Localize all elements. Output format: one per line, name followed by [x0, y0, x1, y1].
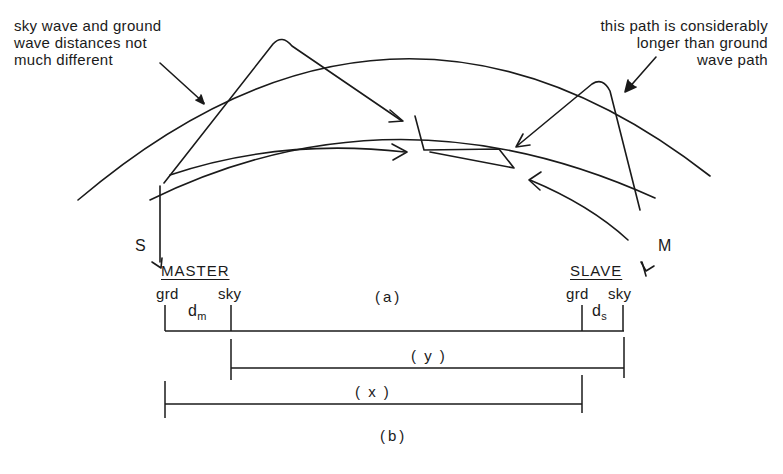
master-heading: MASTER [161, 262, 230, 279]
ground-wave-from-M [530, 180, 628, 240]
slave-grd-label: grd [566, 285, 589, 302]
dm-base: d [188, 302, 197, 319]
slave-heading: SLAVE [570, 262, 622, 279]
left-annotation-line-3: much different [14, 51, 161, 68]
ds-label: ds [592, 302, 607, 325]
panel-a-caption: (a) [375, 288, 402, 305]
ground-wave-from-M-arrowhead [529, 172, 541, 190]
left-annotation: sky wave and ground wave distances not m… [14, 17, 161, 68]
master-grd-label: grd [156, 285, 179, 302]
left-annotation-line-2: wave distances not [14, 34, 161, 51]
aircraft-receiver [415, 116, 514, 168]
right-annotation-line-3: wave path [600, 51, 768, 68]
right-annotation: this path is considerably longer than gr… [600, 17, 768, 68]
left-annotation-line-1: sky wave and ground [14, 17, 161, 34]
sky-wave-from-S-arrowhead [389, 110, 403, 122]
slave-sky-label: sky [608, 285, 631, 302]
ionosphere-arc [78, 59, 710, 200]
loran-skywave-diagram: sky wave and ground wave distances not m… [0, 0, 783, 474]
left-annotation-arrow [160, 63, 204, 103]
ds-base: d [592, 302, 601, 319]
right-annotation-line-2: longer than ground [600, 34, 768, 51]
station-S-label: S [135, 237, 146, 254]
panel-b-caption: (b) [380, 427, 407, 444]
dm-label: dm [188, 302, 207, 325]
interval-y-label: ( y ) [411, 347, 447, 364]
ds-subscript: s [601, 310, 607, 322]
station-M-label: M [658, 237, 672, 254]
dm-subscript: m [197, 310, 206, 322]
right-annotation-line-1: this path is considerably [600, 17, 768, 34]
earth-surface-arc [150, 139, 655, 200]
sky-wave-from-M [517, 82, 640, 210]
master-sky-label: sky [218, 285, 241, 302]
interval-x-label: ( x ) [355, 383, 391, 400]
panel-b-drawing [165, 305, 624, 418]
